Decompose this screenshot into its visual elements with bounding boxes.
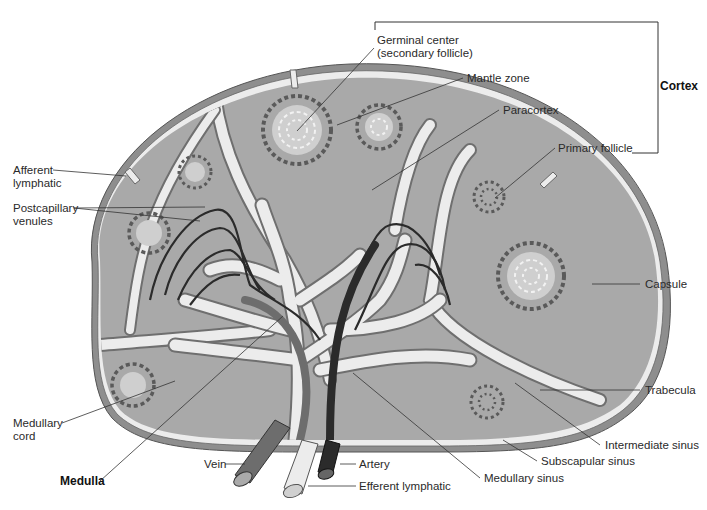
label-medullary-cord: Medullary cord — [13, 417, 63, 443]
label-germinal-center: Germinal center (secondary follicle) — [377, 34, 473, 60]
label-cortex: Cortex — [660, 80, 698, 93]
label-artery: Artery — [359, 458, 390, 471]
label-subscapular-sinus: Subscapular sinus — [541, 455, 635, 468]
label-postcapillary-venules: Postcapillary venules — [13, 202, 78, 228]
label-paracortex: Paracortex — [503, 104, 559, 117]
label-vein: Vein — [204, 458, 226, 471]
label-intermediate-sinus: Intermediate sinus — [605, 439, 699, 452]
label-medulla: Medulla — [60, 475, 105, 488]
label-efferent-lymphatic: Efferent lymphatic — [359, 480, 451, 493]
label-primary-follicle: Primary follicle — [558, 142, 633, 155]
lymph-node-diagram — [0, 0, 707, 510]
label-mantle-zone: Mantle zone — [467, 72, 530, 85]
label-medullary-sinus: Medullary sinus — [484, 472, 564, 485]
label-capsule: Capsule — [645, 278, 687, 291]
label-trabecula: Trabecula — [645, 384, 696, 397]
label-afferent-lymphatic: Afferent lymphatic — [13, 164, 62, 190]
